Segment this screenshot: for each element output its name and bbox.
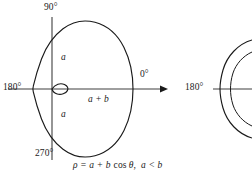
axis-arrowhead-icon	[160, 86, 168, 93]
angle-label-0: 0°	[140, 70, 149, 80]
caption-equals: =	[81, 160, 87, 170]
secondary-figure-cropped	[213, 40, 252, 138]
secondary-angle-label-180: 180°	[185, 83, 203, 93]
angle-label-270: 270°	[35, 149, 53, 159]
caption-condition: a < b	[141, 160, 162, 170]
segment-label-a-plus-b-text: a + b	[88, 94, 109, 104]
segment-label-a-plus-b: a + b	[88, 95, 109, 105]
caption-a: a	[89, 160, 94, 170]
caption-rho: ρ	[73, 160, 78, 170]
caption-b: b	[106, 160, 111, 170]
caption-cos: cos	[114, 160, 127, 170]
caption-comma: ,	[134, 160, 137, 170]
horizontal-axis	[8, 86, 168, 93]
figure-caption: ρ=a+bcosθ,a < b	[73, 160, 162, 170]
segment-label-a-lower: a	[61, 110, 66, 120]
caption-plus: +	[97, 160, 103, 170]
angle-label-90: 90°	[44, 3, 58, 13]
angle-label-180: 180°	[3, 83, 21, 93]
segment-label-a-upper: a	[61, 53, 66, 63]
